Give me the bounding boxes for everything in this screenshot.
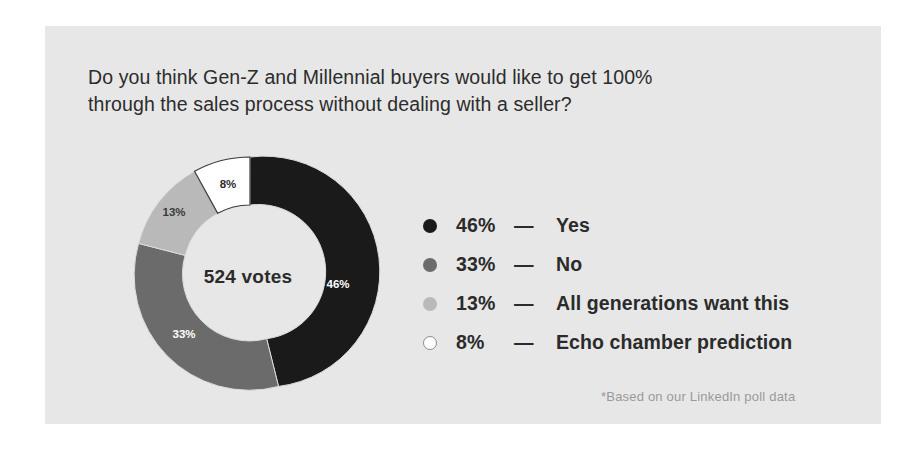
- slice-label-no: 33%: [172, 328, 195, 340]
- legend-dash-echo-chamber: —: [514, 331, 556, 354]
- slice-label-echo-chamber: 8%: [220, 178, 237, 190]
- legend-percent-all-generations: 13%: [456, 292, 514, 315]
- source-footnote: *Based on our LinkedIn poll data: [601, 389, 795, 404]
- slice-label-all-generations: 13%: [162, 206, 185, 218]
- legend-item-echo-chamber: 8% — Echo chamber prediction: [423, 323, 863, 362]
- legend-percent-echo-chamber: 8%: [456, 331, 514, 354]
- donut-slice-no: [134, 243, 278, 390]
- legend-label-echo-chamber: Echo chamber prediction: [556, 331, 792, 354]
- legend-item-all-generations: 13% — All generations want this: [423, 284, 863, 323]
- legend-label-yes: Yes: [556, 214, 590, 237]
- legend-dash-no: —: [514, 253, 556, 276]
- poll-graphic-page: Do you think Gen-Z and Millennial buyers…: [0, 0, 920, 449]
- legend-dash-all-generations: —: [514, 292, 556, 315]
- donut-chart: 46% 33% 13% 8% 524 votes: [90, 141, 410, 403]
- slice-label-yes: 46%: [326, 278, 349, 290]
- legend-item-yes: 46% — Yes: [423, 206, 863, 245]
- legend-swatch-icon-echo-chamber: [423, 336, 437, 350]
- legend-swatch-icon-no: [423, 258, 437, 272]
- donut-chart-svg: 46% 33% 13% 8%: [90, 141, 410, 403]
- page-title: Do you think Gen-Z and Millennial buyers…: [88, 64, 808, 118]
- legend-dash-yes: —: [514, 214, 556, 237]
- legend-percent-no: 33%: [456, 253, 514, 276]
- legend-swatch-icon-yes: [423, 219, 437, 233]
- poll-card: Do you think Gen-Z and Millennial buyers…: [45, 26, 881, 424]
- legend-item-no: 33% — No: [423, 245, 863, 284]
- legend-percent-yes: 46%: [456, 214, 514, 237]
- chart-legend: 46% — Yes 33% — No 13% — All generations…: [423, 206, 863, 362]
- legend-label-no: No: [556, 253, 582, 276]
- legend-label-all-generations: All generations want this: [556, 292, 789, 315]
- legend-swatch-icon-all-generations: [423, 297, 437, 311]
